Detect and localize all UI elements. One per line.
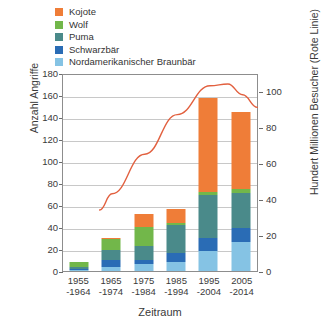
y-axis-right-tick-mark [259, 272, 263, 273]
legend-item-label: Kojote [69, 7, 96, 17]
legend-swatch-icon [55, 21, 63, 29]
x-axis-tick-label: 1975-1984 [127, 276, 160, 297]
x-axis-tick-line: 1975 [127, 276, 160, 287]
x-axis-tick-line: 2005 [225, 276, 258, 287]
x-axis-tick-label: 1965-1974 [95, 276, 128, 297]
y-axis-right-tick-label: 40 [266, 195, 300, 204]
legend-item-label: Wolf [69, 20, 88, 30]
y-axis-right-tick-label: 100 [266, 87, 300, 96]
visitors-line-path [100, 84, 258, 210]
x-axis-tick-line: 1995 [193, 276, 226, 287]
y-axis-left-tick-label: 100 [18, 157, 58, 166]
x-axis-tick-label: 1985-1994 [160, 276, 193, 297]
x-axis-tick-line: -1984 [127, 287, 160, 298]
legend-item: Kojote [55, 6, 196, 19]
visitors-line-series [63, 75, 259, 273]
legend-item: Wolf [55, 19, 196, 32]
y-axis-right-tick-mark [259, 164, 263, 165]
x-axis-tick-label: 1995-2004 [193, 276, 226, 297]
x-axis-ticks: 1955-19641965-19741975-19841985-19941995… [62, 276, 258, 297]
y-axis-right-tick-mark [259, 92, 263, 93]
x-axis-title: Zeitraum [62, 306, 258, 318]
y-axis-right-tick-label: 20 [266, 231, 300, 240]
y-axis-right-title: Hundert Millionen Besucher (Rote Linie) [308, 2, 320, 202]
y-axis-left-tick-label: 140 [18, 113, 58, 122]
y-axis-left-tick-label: 180 [18, 69, 58, 78]
x-axis-tick-line: -2004 [193, 287, 226, 298]
y-axis-left-tick-label: 20 [18, 245, 58, 254]
legend-swatch-icon [55, 8, 63, 16]
y-axis-right-tick-mark [259, 236, 263, 237]
legend-item-label: Nordamerikanischer Braunbär [69, 57, 196, 67]
x-axis-tick-line: 1955 [62, 276, 95, 287]
legend-item-label: Puma [69, 32, 94, 42]
y-axis-left-tick-label: 60 [18, 201, 58, 210]
legend-item: Schwarzbär [55, 44, 196, 57]
legend-swatch-icon [55, 46, 63, 54]
x-axis-tick-label: 2005-2014 [225, 276, 258, 297]
chart-figure: KojoteWolfPumaSchwarzbärNordamerikanisch… [0, 0, 322, 331]
y-axis-right-tick-mark [259, 200, 263, 201]
x-axis-tick-line: -1964 [62, 287, 95, 298]
legend-item: Puma [55, 31, 196, 44]
x-axis-tick-line: -2014 [225, 287, 258, 298]
x-axis-tick-line: 1985 [160, 276, 193, 287]
y-axis-right-tick-label: 60 [266, 159, 300, 168]
y-axis-right-tick-label: 80 [266, 123, 300, 132]
legend-swatch-icon [55, 33, 63, 41]
x-axis-tick-label: 1955-1964 [62, 276, 95, 297]
y-axis-left-tick-label: 0 [18, 267, 58, 276]
y-axis-right-tick-label: 0 [266, 267, 300, 276]
legend-item: Nordamerikanischer Braunbär [55, 56, 196, 69]
chart-legend: KojoteWolfPumaSchwarzbärNordamerikanisch… [55, 6, 196, 69]
legend-swatch-icon [55, 58, 63, 66]
y-axis-left-tick-label: 80 [18, 179, 58, 188]
x-axis-tick-line: -1994 [160, 287, 193, 298]
legend-item-label: Schwarzbär [69, 45, 119, 55]
y-axis-left-tick-label: 120 [18, 135, 58, 144]
x-axis-tick-line: 1965 [95, 276, 128, 287]
plot-area [62, 74, 258, 272]
y-axis-left-tick-label: 40 [18, 223, 58, 232]
y-axis-right-tick-mark [259, 128, 263, 129]
x-axis-tick-line: -1974 [95, 287, 128, 298]
y-axis-left-tick-label: 160 [18, 91, 58, 100]
